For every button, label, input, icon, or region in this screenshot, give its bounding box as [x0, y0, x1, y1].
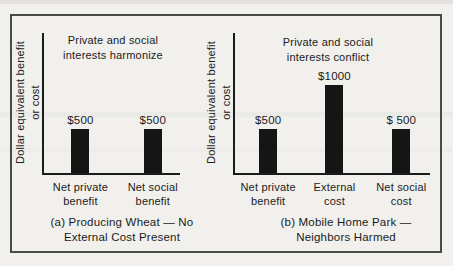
bar	[71, 129, 89, 173]
bar-value-label: $500	[228, 114, 308, 126]
scan-artifact-top	[0, 0, 453, 4]
chart-a-caption: (a) Producing Wheat — No External Cost P…	[32, 215, 212, 244]
bar	[259, 129, 277, 173]
chart-b-plot-area: $500Net private benefit$1000External cos…	[233, 33, 430, 175]
bar-value-label: $1000	[294, 70, 374, 82]
bar	[392, 129, 410, 173]
chart-a-plot-area: $500Net private benefit$500Net social be…	[42, 33, 180, 175]
chart-b-caption: (b) Mobile Home Park — Neighbors Harmed	[256, 215, 436, 244]
bar-value-label: $500	[113, 114, 193, 126]
category-label: Net social cost	[346, 180, 453, 208]
bar-value-label: $500	[40, 114, 120, 126]
bar	[144, 129, 162, 173]
bar-value-label: $ 500	[361, 114, 441, 126]
category-label: Net social benefit	[98, 180, 208, 208]
figure-frame: Dollar equivalent benefit or cost Privat…	[10, 14, 442, 253]
bar	[325, 85, 343, 173]
chart-b-y-axis-label: Dollar equivalent benefit or cost	[204, 28, 237, 178]
